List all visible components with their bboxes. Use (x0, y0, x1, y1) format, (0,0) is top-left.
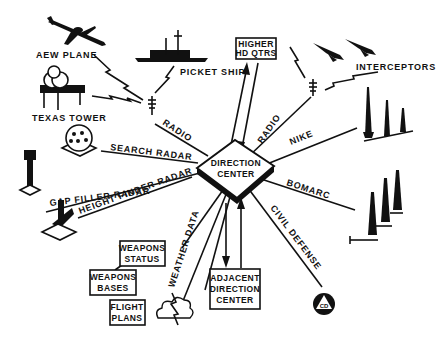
picket-ship-node: PICKET SHIP (135, 30, 245, 77)
civil-defense-label: CIVIL DEFENSE (268, 203, 323, 272)
weapons-bases-label-line2: BASES (97, 283, 128, 293)
weather-data-node: WEATHER DATA (157, 209, 201, 325)
direction-center-label-line2: CENTER (217, 169, 254, 179)
adjacent-dc-label-line1: ADJACENT (210, 273, 260, 283)
search-radar-label: SEARCH RADAR (110, 142, 193, 162)
interceptors-label: INTERCEPTORS (356, 62, 436, 72)
weather-data-label: WEATHER DATA (166, 209, 200, 289)
weapons-bases-node: WEAPONS BASES (90, 270, 137, 295)
aew-plane-label: AEW PLANE (36, 50, 97, 60)
texas-tower-icon (40, 66, 85, 110)
cd-emblem-text: CD (320, 303, 329, 309)
nike-label: NIKE (288, 128, 315, 147)
civil-defense-emblem-icon: CD (313, 293, 335, 315)
picket-ship-lightning-icon (155, 66, 174, 93)
air-defense-diagram: DIRECTION CENTER AEW PLANE PICKET SHIP (0, 0, 443, 347)
radar-dome-icon (62, 125, 96, 156)
interceptors-lightning-icon (325, 72, 378, 90)
radio-right-line (248, 97, 311, 157)
flight-plans-label-line2: PLANS (112, 313, 143, 323)
missile-icon (400, 108, 406, 132)
radar-tower-icon (20, 150, 40, 195)
aew-plane-node: AEW PLANE (36, 16, 106, 60)
antenna-icon (309, 79, 317, 96)
higher-hq-label-line2: HD QTRS (235, 48, 276, 58)
antenna-icon (148, 96, 156, 115)
adjacent-direction-center-node: ADJACENT DIRECTION CENTER (210, 269, 260, 309)
missile-icon (376, 178, 392, 226)
connection-lines (46, 62, 357, 301)
adjacent-dc-label-line3: CENTER (216, 295, 253, 305)
jet-icon (313, 43, 344, 62)
direction-center-label-line1: DIRECTION (211, 158, 261, 168)
hq-lightning-icon (290, 47, 305, 78)
storm-cloud-icon (157, 293, 193, 325)
higher-hq-node: HIGHER HD QTRS (235, 38, 276, 59)
flight-plans-label-line1: FLIGHT (110, 302, 143, 312)
jet-icon (345, 39, 376, 57)
texas-tower-label: TEXAS TOWER (32, 113, 107, 123)
picket-ship-label: PICKET SHIP (180, 67, 245, 77)
flight-plans-node: FLIGHT PLANS (110, 300, 145, 325)
missile-icon (384, 100, 390, 136)
bomarc-label: BOMARC (285, 177, 331, 201)
arrow-head-down-icon (222, 256, 230, 268)
weapons-status-node: WEAPONS STATUS (119, 241, 166, 266)
weapons-status-label-line1: WEAPONS (119, 243, 166, 253)
missile-icon (350, 192, 378, 244)
weapons-status-label-line2: STATUS (124, 254, 159, 264)
ship-icon (135, 30, 208, 62)
height-finder-radar-label: HEIGHT FINDER RADAR (77, 165, 193, 216)
interceptors-node: INTERCEPTORS (313, 39, 436, 72)
nike-missiles-node: NIKE (288, 87, 413, 147)
texas-tower-node: TEXAS TOWER (32, 66, 107, 123)
direction-center-node: DIRECTION CENTER (197, 140, 274, 204)
missile-icon (390, 170, 403, 213)
weapons-bases-label-line1: WEAPONS (90, 272, 137, 282)
aircraft-icon (47, 16, 106, 46)
aew-lightning-icon (94, 55, 143, 100)
texas-tower-lightning-icon (92, 96, 141, 103)
adjacent-dc-label-line2: DIRECTION (210, 284, 260, 294)
missile-icon (363, 87, 374, 138)
